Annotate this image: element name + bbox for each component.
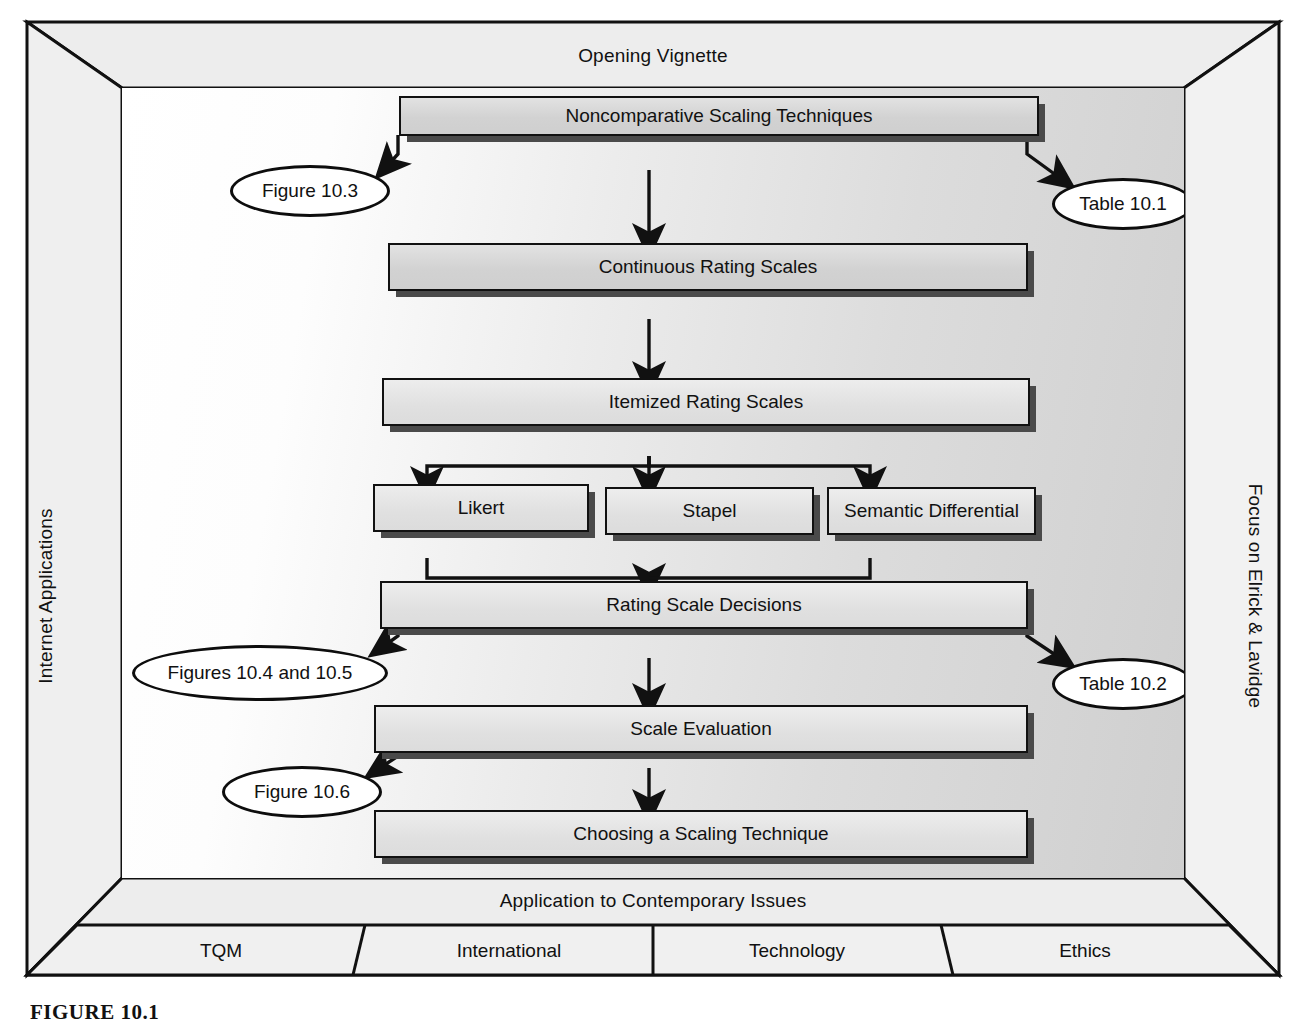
callout-figure-10-3[interactable]: Figure 10.3	[230, 165, 390, 217]
node-label: Continuous Rating Scales	[599, 256, 818, 278]
frame-right-label: Focus on Elrick & Lavidge	[1244, 296, 1266, 896]
node-label: Itemized Rating Scales	[609, 391, 803, 413]
arrow-noncomp-to-fig103	[388, 135, 398, 165]
arrow-itemized-to-likert	[427, 456, 649, 483]
node-noncomparative-scaling-techniques[interactable]: Noncomparative Scaling Techniques	[399, 96, 1039, 136]
node-choosing-a-scaling-technique[interactable]: Choosing a Scaling Technique	[374, 810, 1028, 858]
node-likert[interactable]: Likert	[373, 484, 589, 532]
arrow-branches-to-decisions	[427, 558, 649, 580]
node-label: Rating Scale Decisions	[606, 594, 801, 616]
node-label: Noncomparative Scaling Techniques	[566, 105, 873, 127]
callout-figures-10-4-and-10-5[interactable]: Figures 10.4 and 10.5	[132, 645, 388, 701]
node-label: Scale Evaluation	[630, 718, 772, 740]
tab-technology[interactable]: Technology	[653, 940, 941, 962]
tab-international[interactable]: International	[365, 940, 653, 962]
callout-label: Table 10.2	[1079, 673, 1167, 695]
callout-figure-10-6[interactable]: Figure 10.6	[222, 766, 382, 818]
node-label: Semantic Differential	[844, 500, 1019, 522]
frame-top-label: Opening Vignette	[0, 45, 1306, 67]
tab-ethics[interactable]: Ethics	[941, 940, 1229, 962]
branch-merge-bar	[649, 558, 870, 578]
node-continuous-rating-scales[interactable]: Continuous Rating Scales	[388, 243, 1028, 291]
arrow-itemized-to-semantic	[649, 456, 870, 483]
callout-table-10-1[interactable]: Table 10.1	[1052, 178, 1184, 230]
tab-tqm[interactable]: TQM	[77, 940, 365, 962]
node-stapel[interactable]: Stapel	[605, 487, 814, 535]
flowchart-interior: Noncomparative Scaling Techniques Contin…	[122, 88, 1184, 878]
node-scale-evaluation[interactable]: Scale Evaluation	[374, 705, 1028, 753]
node-label: Likert	[458, 497, 504, 519]
frame-bottom-label: Application to Contemporary Issues	[0, 890, 1306, 912]
node-semantic-differential[interactable]: Semantic Differential	[827, 487, 1036, 535]
figure-caption: FIGURE 10.1	[30, 1000, 159, 1021]
callout-label: Figure 10.6	[254, 781, 350, 803]
arrow-noncomp-to-table101	[1027, 135, 1060, 178]
arrow-decisions-to-table102	[1027, 621, 1060, 658]
callout-table-10-2[interactable]: Table 10.2	[1052, 658, 1184, 710]
node-label: Stapel	[683, 500, 737, 522]
frame-left-label: Internet Applications	[35, 296, 57, 896]
callout-label: Figures 10.4 and 10.5	[168, 662, 353, 684]
callout-label: Table 10.1	[1079, 193, 1167, 215]
figure-canvas: Opening Vignette Application to Contempo…	[0, 0, 1306, 1021]
node-itemized-rating-scales[interactable]: Itemized Rating Scales	[382, 378, 1030, 426]
node-rating-scale-decisions[interactable]: Rating Scale Decisions	[380, 581, 1028, 629]
node-label: Choosing a Scaling Technique	[573, 823, 828, 845]
callout-label: Figure 10.3	[262, 180, 358, 202]
